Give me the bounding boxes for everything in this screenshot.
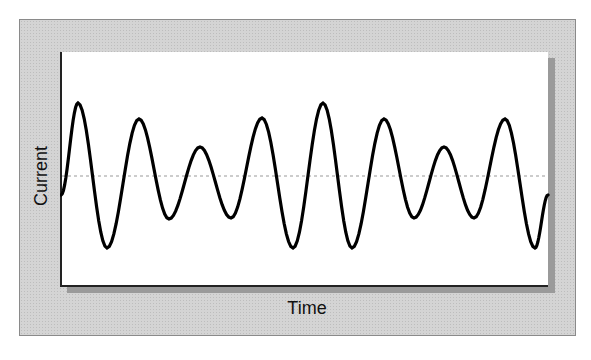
y-axis-label: Current	[31, 146, 52, 206]
waveform-graphic	[60, 52, 550, 287]
x-axis-label: Time	[287, 298, 326, 319]
plot-area	[60, 52, 548, 287]
